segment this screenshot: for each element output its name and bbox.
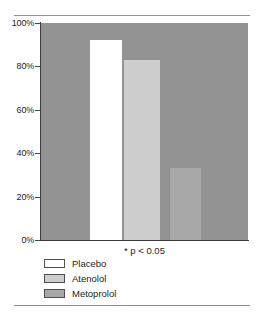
bar-placebo	[90, 40, 122, 240]
y-tick-label: 80%	[1, 62, 34, 71]
y-tick-label-wrap: 0%	[0, 236, 34, 245]
y-axis-line	[40, 22, 41, 241]
x-axis-line	[40, 240, 249, 241]
y-tick-label-wrap: 20%	[0, 193, 34, 202]
y-tick-mark	[35, 110, 40, 111]
legend-swatch	[44, 274, 65, 283]
y-tick-label: 40%	[1, 149, 34, 158]
top-rule	[14, 15, 250, 16]
y-tick-label: 0%	[1, 236, 34, 245]
significance-annotation: * p < 0.05	[124, 245, 165, 256]
y-tick-label-wrap: 40%	[0, 149, 34, 158]
legend-item: Placebo	[44, 256, 116, 271]
y-tick-mark	[35, 23, 40, 24]
bar-metoprolol	[170, 168, 201, 240]
y-tick-label-wrap: 80%	[0, 62, 34, 71]
legend: PlaceboAtenololMetoprolol	[44, 256, 116, 301]
legend-label: Placebo	[72, 258, 106, 269]
figure: 100%80%60%40%20%0% * p < 0.05 PlaceboAte…	[0, 0, 264, 319]
y-tick-mark	[35, 240, 40, 241]
y-tick-mark	[35, 197, 40, 198]
legend-swatch	[44, 259, 65, 268]
y-tick-label: 60%	[1, 106, 34, 115]
legend-item: Metoprolol	[44, 286, 116, 301]
y-tick-label: 20%	[1, 193, 34, 202]
y-tick-label: 100%	[1, 19, 34, 28]
bar-atenolol	[124, 60, 160, 240]
legend-swatch	[44, 289, 65, 298]
y-tick-mark	[35, 153, 40, 154]
legend-label: Atenolol	[72, 273, 106, 284]
y-tick-label-wrap: 60%	[0, 106, 34, 115]
legend-item: Atenolol	[44, 271, 116, 286]
y-tick-mark	[35, 66, 40, 67]
plot-area	[41, 23, 248, 240]
bottom-rule	[14, 305, 250, 306]
y-tick-label-wrap: 100%	[0, 19, 34, 28]
legend-label: Metoprolol	[72, 288, 116, 299]
